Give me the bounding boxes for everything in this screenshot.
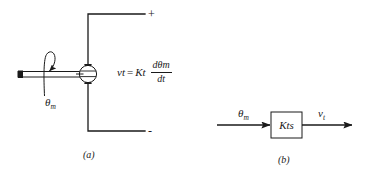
negative-terminal-wire	[88, 84, 145, 131]
positive-terminal-wire	[88, 14, 145, 64]
tachometer-equation: vt = Kt dθm dt	[117, 60, 172, 84]
figure-linework	[0, 0, 367, 176]
equation-lhs: vt	[117, 66, 125, 78]
motor-symbol	[76, 64, 97, 84]
output-signal-subscript: t	[323, 113, 325, 122]
equation-numerator: dθm	[151, 60, 172, 72]
gain-block-label: Kts	[271, 112, 302, 138]
negative-terminal-sign: -	[148, 125, 152, 137]
positive-terminal-sign: +	[148, 8, 155, 20]
caption-b: (b)	[278, 155, 290, 165]
equation-gain: Kt	[135, 66, 145, 78]
motor-shaft	[18, 71, 80, 79]
output-signal-label: vt	[318, 108, 325, 122]
shaft-angle-label: θm	[45, 97, 56, 111]
figure-tachometer: + - θm vt = Kt dθm dt (a) θm Kts vt (b)	[0, 0, 367, 176]
equation-denominator: dt	[155, 73, 167, 85]
input-signal-label: θm	[238, 108, 249, 122]
gain-block-operator: s	[290, 119, 294, 131]
caption-a: (a)	[83, 150, 95, 160]
shaft-angle-subscript: m	[50, 102, 55, 111]
gain-block-gain: Kt	[279, 119, 289, 131]
input-signal-subscript: m	[243, 113, 248, 122]
equation-equals: =	[127, 66, 133, 78]
equation-derivative-fraction: dθm dt	[151, 60, 172, 84]
